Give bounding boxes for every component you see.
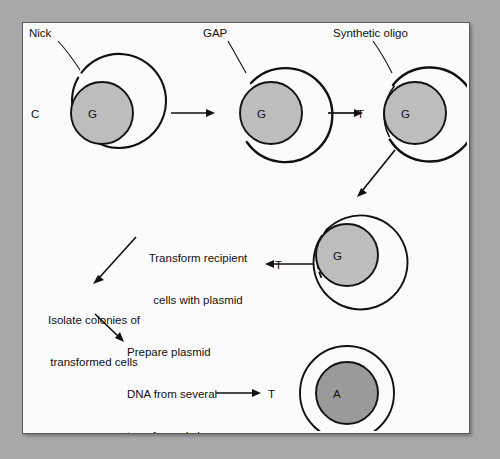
label-nick: Nick: [29, 26, 51, 40]
plasmid-1-outer-base-label: C: [31, 107, 39, 121]
plasmid-3-outer-base-label: T: [357, 107, 364, 121]
nick-leader-line: [58, 41, 80, 70]
prepare-text-line-3: transformed clones;: [127, 429, 237, 434]
figure-panel: Nick GAP Synthetic oligo C T T T G G G G…: [22, 22, 470, 434]
plasmid-5-outer-base-label: T: [268, 387, 275, 401]
plasmid-1-inner-base-label: G: [88, 107, 97, 121]
plasmid-4-inner-base-label: G: [333, 249, 342, 263]
prepare-text-line-2: DNA from several: [127, 387, 237, 401]
arrow-isolate: [93, 237, 136, 284]
transform-text-line-1: Transform recipient: [133, 251, 263, 265]
arrow-transform: [265, 260, 313, 268]
plasmid-3-inner-base-label: G: [401, 107, 410, 121]
plasmid-4-outer-base-label: T: [275, 258, 282, 272]
plasmid-5-group: [300, 346, 394, 431]
plasmid-5-inner-base-label: A: [333, 387, 341, 401]
label-synthetic-oligo: Synthetic oligo: [333, 26, 408, 40]
plasmid-1-inner-circle: [71, 82, 133, 144]
label-gap: GAP: [203, 26, 227, 40]
gap-leader-line: [228, 41, 246, 73]
plasmid-2-inner-circle: [240, 82, 302, 144]
plasmid-1-group: [71, 54, 166, 148]
plasmid-4-inner-circle: [316, 224, 378, 286]
plasmid-4-group: [314, 215, 408, 309]
plasmid-2-group: [240, 68, 332, 162]
arrow-step-1: [171, 109, 215, 117]
prepare-text-line-1: Prepare plasmid: [127, 345, 237, 359]
plasmid-3-inner-circle: [384, 82, 446, 144]
plasmid-3-group: [384, 67, 467, 161]
plasmid-2-inner-base-label: G: [257, 107, 266, 121]
arrow-step-3-diagonal: [357, 150, 395, 197]
synthetic-oligo-leader-line: [373, 41, 392, 73]
plasmid-5-inner-circle: [316, 362, 378, 424]
